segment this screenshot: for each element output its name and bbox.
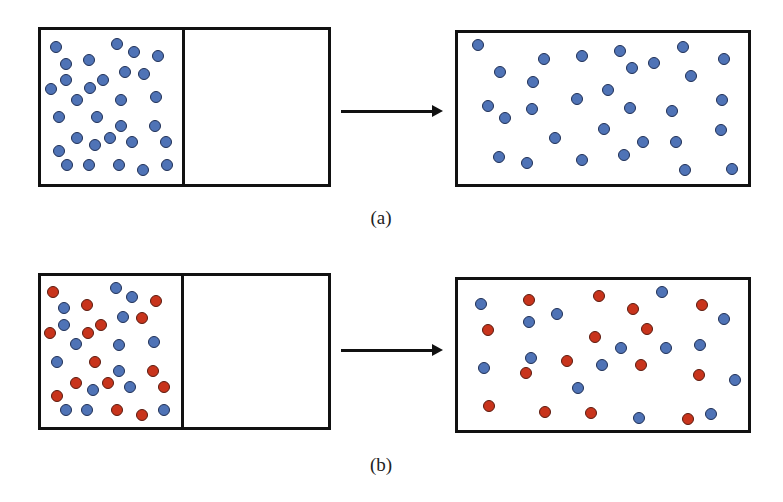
particle-blue: [472, 39, 484, 51]
particle-blue: [126, 136, 138, 148]
particle-blue: [58, 302, 70, 314]
particle-blue: [523, 316, 535, 328]
particle-blue: [499, 112, 511, 124]
particle-blue: [61, 159, 73, 171]
particle-blue: [70, 338, 82, 350]
particle-blue: [694, 339, 706, 351]
particle-red: [102, 377, 114, 389]
particle-blue: [576, 154, 588, 166]
particle-red: [682, 413, 694, 425]
particle-blue: [494, 66, 506, 78]
particle-blue: [119, 66, 131, 78]
particle-red: [111, 404, 123, 416]
particle-red: [51, 390, 63, 402]
particle-blue: [571, 93, 583, 105]
particle-blue: [526, 103, 538, 115]
particle-blue: [104, 132, 116, 144]
particle-blue: [482, 100, 494, 112]
particle-blue: [71, 132, 83, 144]
particle-red: [158, 381, 170, 393]
particle-red: [47, 286, 59, 298]
particle-red: [627, 303, 639, 315]
particle-blue: [60, 404, 72, 416]
particle-blue: [618, 149, 630, 161]
particle-blue: [150, 91, 162, 103]
partition-wall-a: [182, 27, 185, 187]
particle-blue: [677, 41, 689, 53]
particle-blue: [148, 336, 160, 348]
particle-red: [561, 355, 573, 367]
particle-blue: [71, 94, 83, 106]
particle-blue: [716, 94, 728, 106]
particle-blue: [527, 76, 539, 88]
particle-red: [635, 359, 647, 371]
particle-red: [147, 365, 159, 377]
particle-red: [95, 319, 107, 331]
particle-blue: [660, 342, 672, 354]
particle-blue: [115, 120, 127, 132]
caption-b: (b): [370, 454, 392, 476]
particle-blue: [128, 46, 140, 58]
particle-blue: [110, 282, 122, 294]
particle-blue: [113, 339, 125, 351]
particle-blue: [97, 74, 109, 86]
particle-blue: [45, 83, 57, 95]
particle-blue: [113, 159, 125, 171]
particle-blue: [87, 384, 99, 396]
particle-blue: [58, 319, 70, 331]
particle-blue: [705, 408, 717, 420]
particle-blue: [113, 365, 125, 377]
particle-blue: [551, 308, 563, 320]
particle-blue: [715, 124, 727, 136]
particle-red: [81, 299, 93, 311]
particle-blue: [637, 136, 649, 148]
particle-blue: [596, 359, 608, 371]
particle-red: [482, 324, 494, 336]
particle-blue: [729, 374, 741, 386]
particle-blue: [83, 54, 95, 66]
particle-blue: [670, 136, 682, 148]
particle-blue: [633, 412, 645, 424]
particle-blue: [89, 139, 101, 151]
particle-blue: [158, 404, 170, 416]
particle-blue: [726, 163, 738, 175]
particle-blue: [624, 102, 636, 114]
particle-blue: [81, 404, 93, 416]
particle-blue: [576, 50, 588, 62]
particle-blue: [84, 82, 96, 94]
particle-blue: [525, 352, 537, 364]
particle-blue: [549, 132, 561, 144]
particle-blue: [115, 94, 127, 106]
particle-red: [82, 327, 94, 339]
particle-blue: [614, 45, 626, 57]
particle-blue: [51, 356, 63, 368]
particle-red: [641, 323, 653, 335]
container-final-a: [455, 30, 751, 187]
particle-blue: [648, 57, 660, 69]
particle-red: [44, 327, 56, 339]
particle-blue: [60, 58, 72, 70]
particle-blue: [50, 41, 62, 53]
particle-blue: [598, 123, 610, 135]
particle-blue: [83, 159, 95, 171]
particle-red: [585, 407, 597, 419]
particle-blue: [521, 157, 533, 169]
particle-blue: [615, 342, 627, 354]
particle-red: [150, 295, 162, 307]
particle-blue: [124, 381, 136, 393]
particle-red: [523, 294, 535, 306]
particle-blue: [475, 298, 487, 310]
particle-blue: [718, 313, 730, 325]
particle-blue: [478, 362, 490, 374]
particle-blue: [53, 111, 65, 123]
particle-blue: [718, 53, 730, 65]
particle-blue: [53, 145, 65, 157]
particle-blue: [160, 136, 172, 148]
particle-blue: [149, 120, 161, 132]
particle-blue: [572, 382, 584, 394]
partition-wall-b: [181, 273, 184, 430]
particle-blue: [111, 38, 123, 50]
particle-blue: [138, 68, 150, 80]
particle-blue: [161, 159, 173, 171]
particle-blue: [602, 84, 614, 96]
